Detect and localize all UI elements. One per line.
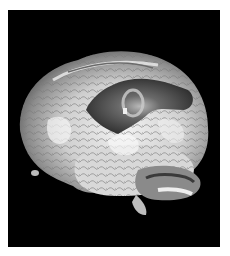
brain-render <box>8 10 220 247</box>
brain-render-panel <box>8 10 220 247</box>
brainstem <box>132 195 146 215</box>
